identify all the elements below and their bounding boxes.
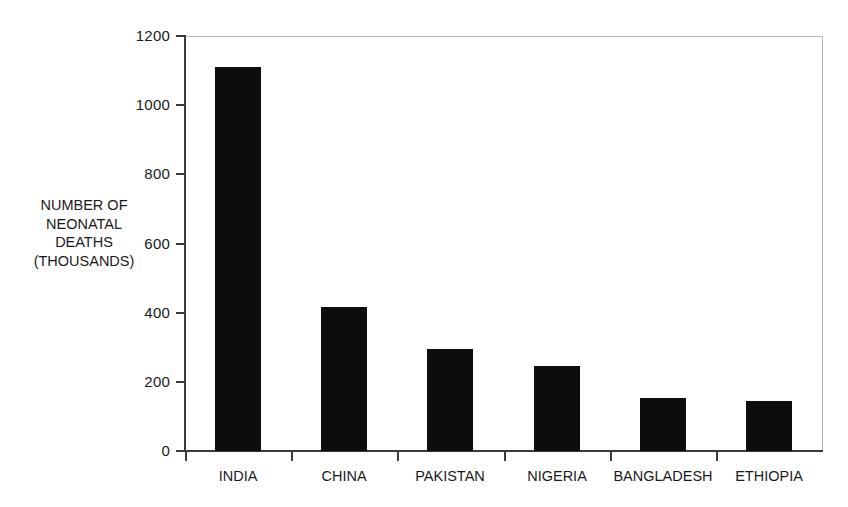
x-axis-tick — [291, 452, 293, 461]
y-axis-tick — [176, 381, 185, 383]
y-axis-title-line: DEATHS — [18, 233, 150, 252]
y-axis-tick-label: 200 — [62, 374, 170, 389]
bar — [215, 67, 261, 451]
x-axis-category-label: ETHIOPIA — [716, 468, 822, 484]
x-axis-tick — [504, 452, 506, 461]
bar — [640, 398, 686, 451]
y-axis-tick-label-text: 200 — [70, 374, 170, 389]
y-axis-tick — [176, 35, 185, 37]
plot-frame-top-border — [185, 36, 823, 37]
x-axis-tick — [610, 452, 612, 461]
y-axis-tick-label-text: 400 — [70, 305, 170, 320]
x-axis-category-label: BANGLADESH — [610, 468, 716, 484]
y-axis-tick — [176, 104, 185, 106]
y-axis-title-line: NEONATAL — [18, 215, 150, 234]
y-axis-title: NUMBER OFNEONATALDEATHS(THOUSANDS) — [18, 196, 150, 270]
y-axis-tick — [176, 450, 185, 452]
bar — [427, 349, 473, 451]
y-axis-tick — [176, 243, 185, 245]
y-axis-tick-label-text: 1200 — [70, 28, 170, 43]
x-axis-category-label: NIGERIA — [504, 468, 610, 484]
y-axis-tick-label: 1000 — [62, 97, 170, 112]
y-axis-title-line: NUMBER OF — [18, 196, 150, 215]
y-axis-tick-label: 0 — [62, 443, 170, 458]
y-axis-tick-label: 1200 — [62, 28, 170, 43]
x-axis-category-label: CHINA — [291, 468, 397, 484]
bar — [321, 307, 367, 451]
x-axis-category-label: INDIA — [185, 468, 291, 484]
x-axis-tick — [716, 452, 718, 461]
y-axis-tick-label-text: 800 — [70, 166, 170, 181]
y-axis-tick — [176, 312, 185, 314]
bar — [746, 401, 792, 451]
y-axis-tick-label-text: 0 — [70, 443, 170, 458]
y-axis-tick-label: 400 — [62, 305, 170, 320]
y-axis-tick-label: 800 — [62, 166, 170, 181]
bar — [534, 366, 580, 451]
x-axis-category-label: PAKISTAN — [397, 468, 503, 484]
plot-frame-right-border — [822, 36, 823, 451]
x-axis-tick — [185, 452, 187, 461]
y-axis-tick — [176, 173, 185, 175]
x-axis-tick — [397, 452, 399, 461]
y-axis-title-line: (THOUSANDS) — [18, 252, 150, 271]
y-axis-tick-label-text: 1000 — [70, 97, 170, 112]
bar-chart: 020040060080010001200 NUMBER OFNEONATALD… — [0, 0, 848, 507]
